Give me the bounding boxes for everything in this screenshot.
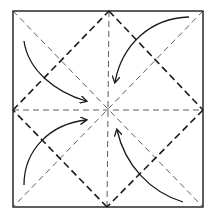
- arrow-top-right-icon: [115, 17, 189, 82]
- fold-arrows: [24, 17, 189, 202]
- arrow-top-left-icon: [24, 41, 86, 101]
- origami-diagram: [0, 0, 211, 215]
- arrow-bottom-right-icon: [117, 130, 183, 202]
- arrow-bottom-left-icon: [24, 120, 86, 185]
- valley-creases: [13, 11, 203, 207]
